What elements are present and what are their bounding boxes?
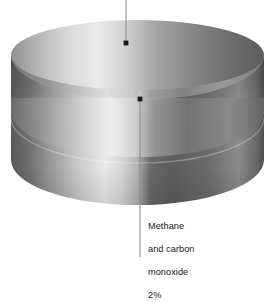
top-ellipse bbox=[11, 20, 264, 90]
top-surface-marker bbox=[124, 41, 129, 46]
callout-line-4-percent: 2% bbox=[148, 290, 258, 301]
wedge-apex-marker bbox=[138, 97, 143, 102]
callout-line-2: and carbon bbox=[148, 244, 258, 255]
callout-line-3: monoxide bbox=[148, 267, 258, 278]
callout-text-block: Methane and carbon monoxide 2% bbox=[148, 210, 258, 302]
callout-line-1: Methane bbox=[148, 221, 258, 232]
